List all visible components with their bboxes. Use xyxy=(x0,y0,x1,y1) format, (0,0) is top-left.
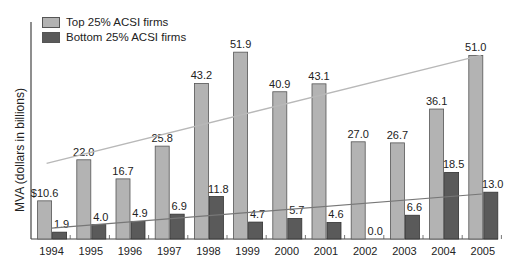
value-label-bottom: 13.0 xyxy=(482,178,503,190)
bar-top-1995 xyxy=(77,160,91,239)
bar-top-1997 xyxy=(155,146,169,239)
trendline-top xyxy=(47,55,481,163)
x-tick-label: 1998 xyxy=(196,245,220,257)
legend-swatch-top xyxy=(42,17,60,28)
bar-bottom-2005 xyxy=(484,192,498,239)
bar-top-2003 xyxy=(390,143,404,239)
value-label-bottom: 6.9 xyxy=(172,200,187,212)
x-tick-label: 1996 xyxy=(118,245,142,257)
bar-top-2000 xyxy=(273,92,287,239)
bar-top-2004 xyxy=(430,109,444,239)
value-label-bottom: 11.8 xyxy=(208,183,229,195)
value-label-bottom: 4.0 xyxy=(93,211,108,223)
bar-top-1996 xyxy=(116,179,130,239)
value-label-bottom: 6.6 xyxy=(407,201,422,213)
value-label-top: 40.9 xyxy=(269,78,290,90)
value-label-bottom: 4.6 xyxy=(328,208,343,220)
bar-top-1994 xyxy=(38,201,52,239)
bar-bottom-2000 xyxy=(288,218,302,239)
value-label-top: 51.9 xyxy=(230,38,251,50)
bar-top-2001 xyxy=(312,84,326,239)
x-tick-label: 2002 xyxy=(353,245,377,257)
bar-bottom-1998 xyxy=(209,197,223,239)
bar-bottom-1995 xyxy=(92,225,106,239)
bar-bottom-1994 xyxy=(53,232,67,239)
value-label-top: 43.2 xyxy=(191,69,212,81)
legend-label-top: Top 25% ACSI firms xyxy=(66,15,168,30)
bar-bottom-2003 xyxy=(405,215,419,239)
bar-top-1999 xyxy=(234,52,248,239)
value-label-top: 27.0 xyxy=(347,128,368,140)
bar-top-2002 xyxy=(351,142,365,239)
bar-bottom-2004 xyxy=(445,172,459,239)
x-tick-label: 1999 xyxy=(235,245,259,257)
x-tick-label: 2001 xyxy=(314,245,338,257)
value-label-top: 16.7 xyxy=(112,165,133,177)
x-tick-label: 2004 xyxy=(431,245,455,257)
y-axis-label: MVA (dollars in billions) xyxy=(13,88,27,212)
x-tick-label: 1997 xyxy=(157,245,181,257)
legend-item-top: Top 25% ACSI firms xyxy=(42,15,186,30)
value-label-bottom: 4.7 xyxy=(250,208,265,220)
legend-label-bottom: Bottom 25% ACSI firms xyxy=(66,30,186,45)
value-label-bottom: 4.9 xyxy=(132,207,147,219)
bar-bottom-1999 xyxy=(249,222,263,239)
x-tick-label: 2005 xyxy=(471,245,495,257)
legend-swatch-bottom xyxy=(42,32,60,43)
value-label-bottom: 5.7 xyxy=(289,204,304,216)
legend: Top 25% ACSI firms Bottom 25% ACSI firms xyxy=(42,15,186,45)
x-tick-label: 2000 xyxy=(275,245,299,257)
legend-item-bottom: Bottom 25% ACSI firms xyxy=(42,30,186,45)
x-tick-label: 2003 xyxy=(392,245,416,257)
value-label-top: 43.1 xyxy=(308,70,329,82)
value-label-top: 51.0 xyxy=(465,41,486,53)
bar-bottom-1996 xyxy=(131,221,145,239)
x-tick-label: 1994 xyxy=(39,245,63,257)
value-label-bottom: 18.5 xyxy=(443,158,464,170)
value-label-top: 36.1 xyxy=(426,95,447,107)
bar-top-2005 xyxy=(469,55,483,239)
value-label-bottom: 0.0 xyxy=(368,225,383,237)
value-label-top: 26.7 xyxy=(387,129,408,141)
bar-bottom-2001 xyxy=(327,222,341,239)
x-tick-label: 1995 xyxy=(79,245,103,257)
value-label-top: 25.8 xyxy=(151,132,172,144)
value-label-top: $10.6 xyxy=(31,187,59,199)
